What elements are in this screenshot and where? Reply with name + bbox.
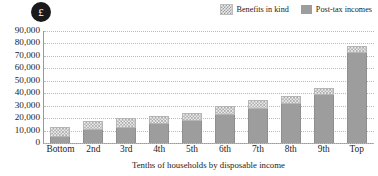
bar-segment-benefits-in-kind[interactable] bbox=[149, 116, 169, 124]
legend-swatch-post-tax-incomes bbox=[301, 5, 312, 14]
y-axis-tick-labels: 90,00080,00070,00060,00050,00040,00030,0… bbox=[0, 31, 40, 143]
bar-stack[interactable] bbox=[248, 100, 268, 143]
x-axis-tick-label: 7th bbox=[241, 145, 274, 154]
bar-segment-benefits-in-kind[interactable] bbox=[314, 88, 334, 95]
bar-segment-benefits-in-kind[interactable] bbox=[182, 113, 202, 120]
bar-segment-post-tax-incomes[interactable] bbox=[182, 121, 202, 143]
bar-segment-post-tax-incomes[interactable] bbox=[248, 109, 268, 143]
y-axis-tick-label: 40,000 bbox=[0, 89, 40, 98]
bar-segment-benefits-in-kind[interactable] bbox=[50, 127, 70, 137]
x-axis-tick-label: 4th bbox=[143, 145, 176, 154]
y-axis-tick-label: 50,000 bbox=[0, 76, 40, 85]
bar-slot bbox=[143, 31, 176, 143]
y-axis-tick-label: 90,000 bbox=[0, 26, 40, 35]
bar-segment-post-tax-incomes[interactable] bbox=[149, 124, 169, 143]
y-axis-tick-label: 30,000 bbox=[0, 101, 40, 110]
bar-segment-benefits-in-kind[interactable] bbox=[347, 46, 367, 53]
y-axis-tick-label: 60,000 bbox=[0, 64, 40, 73]
x-axis-tick-label: 2nd bbox=[77, 145, 110, 154]
x-axis-tick-label: 3rd bbox=[110, 145, 143, 154]
chart-legend: Benefits in kind Post-tax incomes bbox=[220, 4, 372, 15]
y-axis-tick-label: 80,000 bbox=[0, 39, 40, 48]
bar-segment-post-tax-incomes[interactable] bbox=[347, 53, 367, 143]
y-axis-tick-label: 0 bbox=[0, 138, 40, 147]
bar-series-group bbox=[44, 31, 373, 143]
y-axis-tick-label: 70,000 bbox=[0, 51, 40, 60]
bar-stack[interactable] bbox=[116, 118, 136, 143]
legend-label-post-tax-incomes: Post-tax incomes bbox=[316, 5, 372, 14]
bar-segment-benefits-in-kind[interactable] bbox=[83, 121, 103, 130]
x-axis-tick-label: Bottom bbox=[44, 145, 77, 154]
x-axis-tick-label: 5th bbox=[176, 145, 209, 154]
bar-segment-post-tax-incomes[interactable] bbox=[281, 104, 301, 143]
bar-segment-post-tax-incomes[interactable] bbox=[314, 95, 334, 143]
bar-segment-post-tax-incomes[interactable] bbox=[116, 128, 136, 143]
bar-slot bbox=[110, 31, 143, 143]
legend-swatch-benefits-in-kind bbox=[220, 4, 233, 15]
bar-stack[interactable] bbox=[83, 121, 103, 143]
y-axis-tick-label: 10,000 bbox=[0, 126, 40, 135]
bar-stack[interactable] bbox=[182, 113, 202, 143]
bar-stack[interactable] bbox=[215, 106, 235, 143]
bar-stack[interactable] bbox=[50, 127, 70, 143]
bar-segment-benefits-in-kind[interactable] bbox=[215, 106, 235, 115]
bar-slot bbox=[77, 31, 110, 143]
x-axis-tick-label: 6th bbox=[209, 145, 242, 154]
pound-sterling-badge: £ bbox=[31, 2, 51, 22]
bar-slot bbox=[44, 31, 77, 143]
legend-item-benefits-in-kind: Benefits in kind bbox=[220, 4, 289, 15]
bar-slot bbox=[241, 31, 274, 143]
legend-label-benefits-in-kind: Benefits in kind bbox=[237, 5, 289, 14]
bar-stack[interactable] bbox=[149, 116, 169, 143]
x-axis-tick-label: Top bbox=[340, 145, 373, 154]
x-axis-title: Tenths of households by disposable incom… bbox=[44, 161, 373, 170]
bar-segment-post-tax-incomes[interactable] bbox=[83, 130, 103, 143]
legend-item-post-tax-incomes: Post-tax incomes bbox=[301, 5, 372, 14]
pound-symbol: £ bbox=[38, 7, 44, 18]
bar-segment-post-tax-incomes[interactable] bbox=[50, 137, 70, 143]
bar-segment-post-tax-incomes[interactable] bbox=[215, 115, 235, 143]
bar-stack[interactable] bbox=[314, 88, 334, 143]
x-axis-tick-label: 9th bbox=[307, 145, 340, 154]
bar-stack[interactable] bbox=[347, 46, 367, 143]
x-axis-tick-labels: Bottom2nd3rd4th5th6th7th8th9thTop bbox=[44, 145, 373, 154]
bar-slot bbox=[176, 31, 209, 143]
bar-segment-benefits-in-kind[interactable] bbox=[116, 118, 136, 128]
bar-slot bbox=[209, 31, 242, 143]
bar-slot bbox=[340, 31, 373, 143]
bar-slot bbox=[274, 31, 307, 143]
bar-segment-benefits-in-kind[interactable] bbox=[248, 100, 268, 109]
x-axis-tick-label: 8th bbox=[274, 145, 307, 154]
bar-stack[interactable] bbox=[281, 96, 301, 143]
bar-segment-benefits-in-kind[interactable] bbox=[281, 96, 301, 104]
chart-container: £ Benefits in kind Post-tax incomes 90,0… bbox=[0, 0, 378, 176]
y-axis-tick-label: 20,000 bbox=[0, 114, 40, 123]
bar-slot bbox=[307, 31, 340, 143]
